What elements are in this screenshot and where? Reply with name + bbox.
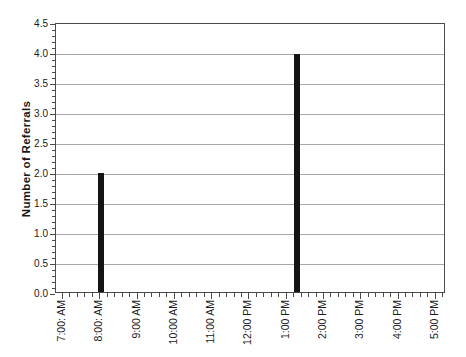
y-minor-tick	[52, 288, 55, 289]
y-minor-tick	[52, 210, 55, 211]
y-minor-tick	[52, 108, 55, 109]
x-minor-tick	[345, 293, 346, 297]
y-tick-label: 1.0	[34, 228, 48, 239]
y-tick-label: 2.0	[34, 168, 48, 179]
x-tick-label: 4:00 PM	[391, 300, 403, 339]
y-tick-label: 0.0	[34, 288, 48, 299]
y-axis-labels: 0.00.51.01.52.02.53.03.54.04.5	[0, 23, 51, 293]
y-minor-tick	[52, 252, 55, 253]
y-tick-label: 0.5	[34, 258, 48, 269]
x-minor-tick	[196, 293, 197, 297]
x-minor-tick	[226, 293, 227, 297]
x-minor-tick	[390, 293, 391, 297]
x-major-tick	[360, 293, 361, 299]
y-minor-tick	[52, 132, 55, 133]
x-minor-tick	[204, 293, 205, 297]
x-minor-tick	[129, 293, 130, 297]
x-major-tick	[398, 293, 399, 299]
x-minor-tick	[316, 293, 317, 297]
y-minor-tick	[52, 246, 55, 247]
y-minor-tick	[52, 36, 55, 37]
x-major-tick	[286, 293, 287, 299]
y-minor-tick	[52, 72, 55, 73]
x-minor-tick	[92, 293, 93, 297]
y-major-tick	[50, 294, 55, 295]
x-tick-label: 7:00: AM	[55, 300, 67, 341]
y-minor-tick	[52, 150, 55, 151]
x-minor-tick	[427, 293, 428, 297]
x-major-tick	[174, 293, 175, 299]
x-minor-tick	[166, 293, 167, 297]
plot-area	[55, 23, 445, 293]
x-minor-tick	[189, 293, 190, 297]
x-minor-tick	[353, 293, 354, 297]
y-tick-label: 2.5	[34, 138, 48, 149]
x-tick-label: 1:00 PM	[279, 300, 291, 339]
y-minor-tick	[52, 42, 55, 43]
y-minor-tick	[52, 222, 55, 223]
y-minor-tick	[52, 126, 55, 127]
x-minor-tick	[271, 293, 272, 297]
y-minor-tick	[52, 66, 55, 67]
x-minor-tick	[84, 293, 85, 297]
y-minor-tick	[52, 276, 55, 277]
x-minor-tick	[181, 293, 182, 297]
x-minor-tick	[301, 293, 302, 297]
referrals-bar-chart: Number of Referrals 0.00.51.01.52.02.53.…	[0, 0, 466, 357]
x-tick-label: 9:00 AM	[130, 300, 142, 339]
y-minor-tick	[52, 156, 55, 157]
x-major-tick	[323, 293, 324, 299]
x-major-tick	[137, 293, 138, 299]
x-minor-tick	[144, 293, 145, 297]
x-minor-tick	[234, 293, 235, 297]
x-tick-label: 12:00 PM	[241, 300, 253, 345]
y-tick-label: 4.5	[34, 18, 48, 29]
x-tick-label: 2:00 PM	[316, 300, 328, 339]
x-minor-tick	[263, 293, 264, 297]
x-tick-label: 8:00: AM	[92, 300, 104, 341]
y-minor-tick	[52, 138, 55, 139]
y-minor-tick	[52, 102, 55, 103]
x-minor-tick	[368, 293, 369, 297]
y-minor-tick	[52, 192, 55, 193]
y-minor-tick	[52, 120, 55, 121]
x-minor-tick	[338, 293, 339, 297]
x-minor-tick	[256, 293, 257, 297]
x-minor-tick	[383, 293, 384, 297]
y-tick-label: 1.5	[34, 198, 48, 209]
x-tick-label: 5:00 PM	[428, 300, 440, 339]
y-minor-tick	[52, 228, 55, 229]
y-minor-tick	[52, 60, 55, 61]
x-minor-tick	[241, 293, 242, 297]
x-minor-tick	[122, 293, 123, 297]
x-minor-tick	[159, 293, 160, 297]
y-minor-tick	[52, 282, 55, 283]
y-minor-tick	[52, 270, 55, 271]
x-tick-label: 11:00 AM	[204, 300, 216, 344]
y-tick-label: 3.0	[34, 108, 48, 119]
y-tick-label: 4.0	[34, 48, 48, 59]
x-minor-tick	[114, 293, 115, 297]
y-minor-tick	[52, 168, 55, 169]
x-minor-tick	[278, 293, 279, 297]
y-minor-tick	[52, 162, 55, 163]
x-tick-label: 10:00 AM	[167, 300, 179, 344]
ticks-layer	[56, 24, 444, 292]
x-minor-tick	[151, 293, 152, 297]
x-minor-tick	[107, 293, 108, 297]
y-minor-tick	[52, 198, 55, 199]
x-minor-tick	[308, 293, 309, 297]
x-major-tick	[211, 293, 212, 299]
x-minor-tick	[420, 293, 421, 297]
y-minor-tick	[52, 240, 55, 241]
y-tick-label: 3.5	[34, 78, 48, 89]
y-minor-tick	[52, 216, 55, 217]
y-minor-tick	[52, 30, 55, 31]
x-minor-tick	[442, 293, 443, 297]
y-minor-tick	[52, 90, 55, 91]
x-major-tick	[62, 293, 63, 299]
x-minor-tick	[330, 293, 331, 297]
x-minor-tick	[412, 293, 413, 297]
x-major-tick	[99, 293, 100, 299]
x-minor-tick	[77, 293, 78, 297]
